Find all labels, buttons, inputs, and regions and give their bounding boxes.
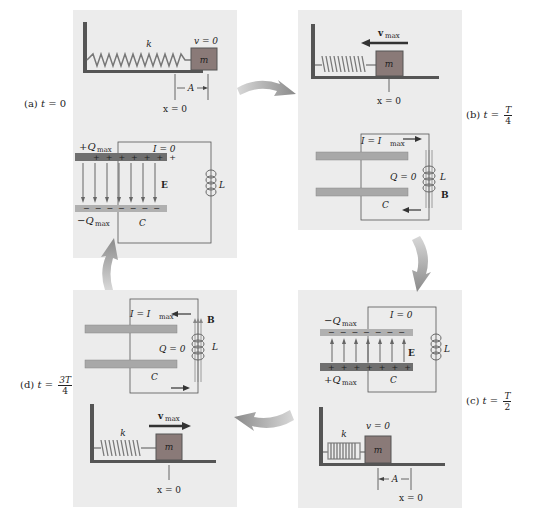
svg-text:−−−−−−−: −−−−−−− [328, 328, 410, 337]
svg-text:max: max [342, 320, 357, 328]
equilibrium-label: x = 0 [399, 493, 423, 503]
panel-b-time-label: (b) t = T4 [466, 105, 512, 126]
current-label: I = I [129, 309, 151, 319]
capacitor-label: C [139, 218, 146, 228]
svg-text:m: m [165, 442, 174, 452]
panel-c-time-label: (c) t = T2 [466, 391, 511, 412]
current-label: I = 0 [389, 310, 413, 320]
velocity-label: v = 0 [194, 36, 218, 46]
panel-b-drawing: m v max x = 0 I = I max Q = 0 C L B [298, 10, 462, 230]
svg-text:L: L [439, 172, 446, 182]
electric-field-arrows [83, 163, 155, 200]
svg-text:max: max [95, 220, 110, 228]
mass-label: m [200, 55, 209, 65]
panel-d-time-label: (d) t = 3T4 [20, 375, 72, 396]
panel-a: m k v = 0 A x = 0 +++++++ −−−−−−− E +Q m… [73, 10, 237, 258]
svg-text:L: L [443, 344, 450, 354]
spring-constant-label: k [146, 39, 151, 49]
top-plate [316, 152, 408, 160]
current-label: I = 0 [152, 144, 176, 154]
equilibrium-label: x = 0 [163, 104, 187, 114]
svg-text:L: L [211, 342, 218, 352]
panel-c: −−−−−−− +++++++ E −Q max +Q max I = 0 C … [298, 290, 462, 508]
panel-a-drawing: m k v = 0 A x = 0 +++++++ −−−−−−− E +Q m… [73, 10, 237, 258]
bottom-plate [85, 360, 177, 368]
spring [87, 54, 191, 66]
top-charge-label: −Q [324, 315, 341, 326]
svg-text:+++++++: +++++++ [328, 363, 417, 372]
equilibrium-label: x = 0 [157, 485, 181, 495]
svg-text:max: max [342, 379, 357, 387]
field-label: B [441, 190, 449, 200]
svg-text:m: m [374, 445, 383, 455]
arrow-b-to-c-icon [412, 236, 431, 292]
current-label: I = I [360, 136, 382, 146]
svg-text:k: k [341, 429, 346, 439]
top-charge-label: +Q [79, 141, 96, 152]
capacitor-label: C [382, 200, 389, 210]
panel-d-drawing: I = I max Q = 0 C B L m k v max x = 0 [73, 290, 237, 507]
equilibrium-label: x = 0 [377, 96, 401, 106]
panel-a-time-label: (a) t = 0 [24, 98, 66, 109]
velocity-label: v [377, 28, 384, 38]
amplitude-label: A [391, 474, 399, 484]
spring [315, 56, 376, 72]
spring [94, 440, 156, 456]
svg-text:max: max [390, 140, 405, 148]
magnetic-field-lines [426, 150, 432, 208]
wall [83, 22, 87, 72]
svg-text:m: m [385, 59, 394, 69]
svg-text:max: max [97, 146, 112, 154]
field-label: E [408, 348, 415, 358]
bottom-charge-label: +Q [324, 374, 341, 385]
svg-text:max: max [165, 415, 180, 423]
top-plate [85, 325, 177, 333]
svg-text:max: max [385, 32, 400, 40]
floor [83, 70, 203, 73]
bottom-plate [316, 188, 408, 196]
field-label: E [161, 180, 168, 190]
panel-c-drawing: −−−−−−− +++++++ E −Q max +Q max I = 0 C … [298, 290, 462, 508]
charge-label: Q = 0 [159, 344, 186, 354]
bottom-charge-label: −Q [77, 215, 94, 226]
field-label: B [207, 315, 215, 325]
charge-label: Q = 0 [390, 172, 417, 182]
amplitude-label: A [187, 83, 195, 93]
velocity-label: v = 0 [366, 421, 390, 431]
capacitor-label: C [390, 375, 397, 385]
svg-text:−−−−−−−: −−−−−−− [83, 204, 165, 213]
electric-field-arrows [332, 342, 404, 362]
arrow-a-to-b-icon [237, 80, 296, 96]
spring [323, 443, 365, 459]
arrow-c-to-d-icon [234, 410, 294, 431]
velocity-label: v [157, 411, 164, 421]
svg-text:k: k [120, 428, 125, 438]
capacitor-label: C [151, 372, 158, 382]
panel-b: m v max x = 0 I = I max Q = 0 C L B [298, 10, 462, 230]
svg-text:+++++++: +++++++ [93, 153, 182, 162]
inductor-label: L [218, 180, 225, 190]
panel-d: I = I max Q = 0 C B L m k v max x = 0 [73, 290, 237, 507]
